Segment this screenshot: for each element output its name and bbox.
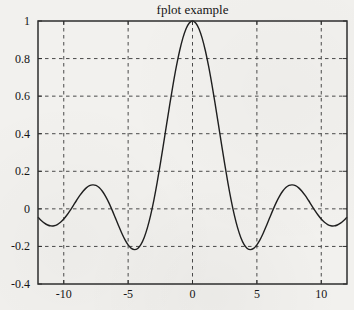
figure-window: fplot example -10-50510-0.4-0.200.20.40.… (0, 0, 354, 310)
plot-border (38, 21, 347, 284)
y-tick-label: -0.4 (0, 277, 33, 291)
x-tick-label: -10 (47, 287, 81, 301)
x-tick-label: 10 (304, 287, 338, 301)
plot-area (0, 0, 354, 310)
x-tick-label: 0 (176, 287, 210, 301)
y-tick-label: 0.4 (0, 127, 33, 141)
y-tick-label: 0.2 (0, 164, 33, 178)
x-tick-label: 5 (240, 287, 274, 301)
y-tick-label: 1 (0, 14, 33, 28)
y-tick-label: -0.2 (0, 239, 33, 253)
y-tick-label: 0.6 (0, 89, 33, 103)
y-tick-label: 0.8 (0, 52, 33, 66)
x-tick-label: -5 (111, 287, 145, 301)
y-tick-label: 0 (0, 202, 33, 216)
